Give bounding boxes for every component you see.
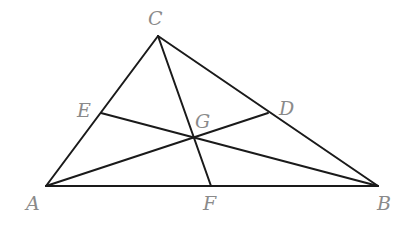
point-label-g: G <box>195 110 210 132</box>
point-label-f: F <box>202 192 217 214</box>
point-label-c: C <box>148 7 163 29</box>
segment-be <box>101 113 378 186</box>
point-label-a: A <box>24 192 40 214</box>
segments-group <box>46 36 378 186</box>
point-label-d: D <box>278 97 294 119</box>
point-label-e: E <box>76 99 91 121</box>
triangle-medians-diagram: CEDGAFB <box>0 0 408 225</box>
segment-ad <box>46 113 268 186</box>
segment-ca <box>46 36 158 186</box>
segment-bc <box>158 36 378 186</box>
point-label-b: B <box>376 192 391 214</box>
labels-group: CEDGAFB <box>24 7 391 214</box>
